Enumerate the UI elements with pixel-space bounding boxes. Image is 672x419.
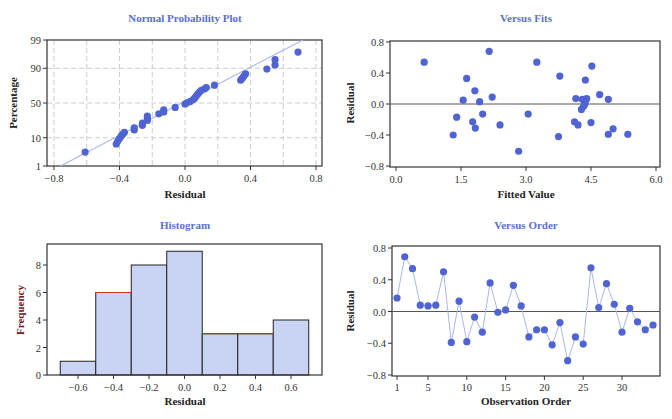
svg-text:8: 8 (36, 260, 41, 271)
data-point (618, 329, 625, 336)
data-point (572, 333, 579, 340)
versus-order-panel: Versus Order 151015202530 −0.8−0.40.00.4… (344, 219, 660, 407)
data-point (463, 338, 470, 345)
npp-x-label: Residual (165, 188, 206, 200)
data-point (496, 121, 503, 128)
data-point (605, 96, 612, 103)
svg-text:−0.8: −0.8 (367, 370, 386, 381)
svg-text:−0.4: −0.4 (365, 130, 385, 141)
svg-text:0.4: 0.4 (244, 173, 258, 184)
data-point (510, 282, 517, 289)
svg-text:2: 2 (36, 343, 41, 354)
svg-text:10: 10 (462, 382, 473, 393)
svg-text:0: 0 (36, 370, 41, 381)
data-point (476, 98, 483, 105)
svg-text:−0.6: −0.6 (68, 382, 87, 393)
data-point (556, 319, 563, 326)
svg-text:50: 50 (31, 98, 42, 109)
svg-text:0.8: 0.8 (309, 173, 322, 184)
data-point (587, 264, 594, 271)
data-point (587, 119, 594, 126)
histogram-x-axis-ticks: −0.6−0.4−0.20.00.20.40.6 (68, 375, 297, 393)
histogram-bar (131, 265, 167, 375)
data-point (533, 59, 540, 66)
data-point (432, 302, 439, 309)
data-point (642, 326, 649, 333)
data-point (211, 82, 218, 89)
data-point (455, 298, 462, 305)
data-point (555, 133, 562, 140)
versus-fits-panel: Versus Fits 0.01.53.04.56.0 −0.8−0.40.00… (344, 12, 663, 200)
data-point (448, 339, 455, 346)
histogram-bar (202, 334, 238, 375)
data-point (541, 326, 548, 333)
data-point (533, 326, 540, 333)
data-point (417, 302, 424, 309)
fits-title: Versus Fits (500, 12, 553, 24)
data-point (203, 84, 210, 91)
npp-x-axis-ticks: −0.8−0.40.00.40.8 (44, 166, 322, 184)
data-point (172, 104, 179, 111)
order-x-axis-ticks: 151015202530 (394, 376, 627, 393)
svg-text:0.0: 0.0 (389, 174, 402, 185)
data-point (460, 97, 467, 104)
data-point (489, 93, 496, 100)
histogram-panel: Histogram −0.6−0.4−0.20.00.20.40.6 02468… (14, 219, 322, 407)
data-point (525, 333, 532, 340)
data-point (440, 268, 447, 275)
histogram-bar (96, 293, 132, 376)
svg-text:99: 99 (31, 35, 42, 46)
histogram-bars (60, 251, 309, 375)
data-point (82, 148, 89, 155)
order-y-label: Residual (344, 291, 356, 332)
data-point (479, 329, 486, 336)
data-point (469, 118, 476, 125)
data-point (518, 302, 525, 309)
order-data-points (393, 253, 656, 364)
svg-text:0.6: 0.6 (284, 382, 297, 393)
data-point (515, 148, 522, 155)
svg-text:0.0: 0.0 (178, 173, 191, 184)
fits-x-axis-ticks: 0.01.53.04.56.0 (389, 167, 662, 185)
svg-text:25: 25 (578, 382, 589, 393)
data-point (294, 48, 301, 55)
data-point (634, 318, 641, 325)
data-point (271, 56, 278, 63)
data-point (610, 125, 617, 132)
histogram-x-label: Residual (165, 395, 206, 407)
npp-y-axis-ticks: 110509099 (31, 35, 48, 172)
histogram-bar (167, 251, 203, 375)
npp-title: Normal Probability Plot (128, 12, 242, 24)
histogram-bar (273, 320, 309, 375)
svg-text:4.5: 4.5 (584, 174, 597, 185)
data-point (401, 253, 408, 260)
data-point (242, 70, 249, 77)
fits-data-points (421, 48, 632, 155)
svg-text:10: 10 (31, 133, 42, 144)
data-point (463, 75, 470, 82)
data-point (649, 321, 656, 328)
svg-text:0.0: 0.0 (178, 382, 191, 393)
data-point (421, 59, 428, 66)
svg-text:1: 1 (36, 161, 41, 172)
svg-text:0.0: 0.0 (373, 307, 386, 318)
svg-text:0.4: 0.4 (371, 68, 385, 79)
data-point (549, 341, 556, 348)
svg-text:5: 5 (425, 382, 430, 393)
data-point (471, 313, 478, 320)
svg-text:90: 90 (31, 63, 42, 74)
data-point (409, 265, 416, 272)
data-point (556, 73, 563, 80)
svg-text:20: 20 (539, 382, 550, 393)
svg-text:30: 30 (617, 382, 628, 393)
data-point (494, 309, 501, 316)
data-point (580, 340, 587, 347)
svg-text:−0.4: −0.4 (104, 382, 124, 393)
data-point (121, 129, 128, 136)
svg-text:0.2: 0.2 (213, 382, 226, 393)
svg-text:4: 4 (36, 315, 42, 326)
order-y-axis-ticks: −0.8−0.40.00.40.8 (367, 243, 392, 381)
data-point (453, 114, 460, 121)
histogram-bar (60, 361, 96, 375)
data-point (450, 131, 457, 138)
